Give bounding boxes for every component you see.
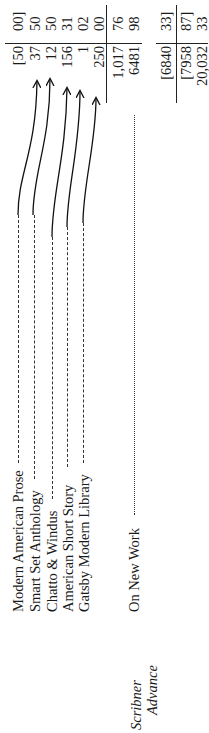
amount-cents-row-5: 02 <box>75 17 91 32</box>
amount-cents-row-2: 50 <box>27 17 43 32</box>
arrow-icon <box>52 88 67 237</box>
advance-total-cents: 33 <box>194 17 209 32</box>
arrow-icon <box>33 79 50 215</box>
amount-cents-row-3: 50 <box>43 17 59 32</box>
advance-cents-2: 87] <box>178 12 194 31</box>
advance-whole-1: [6840 <box>158 46 174 80</box>
subtotal-cents: 76 <box>110 17 126 32</box>
new-work-whole: 6481 <box>126 46 142 75</box>
column-separator-lower <box>156 43 208 44</box>
arrow-icon <box>83 98 96 223</box>
subtotal-rule <box>106 5 107 103</box>
arrow-icon <box>67 91 80 227</box>
advance-whole-2: [7958 <box>178 46 194 80</box>
amount-cents-row-1: 00] <box>10 12 26 31</box>
amount-whole-row-1: [50 <box>10 46 26 65</box>
amount-whole-row-4: 156 <box>59 46 75 68</box>
amount-cents-row-6: 00 <box>91 17 107 32</box>
page-frame: Modern American Prose Smart Set Antholog… <box>0 0 209 733</box>
column-separator-upper <box>5 43 142 44</box>
advance-total-whole: 20,032 <box>194 46 209 86</box>
amount-whole-row-5: 1 <box>75 46 91 53</box>
amount-whole-row-2: 37 <box>27 46 43 61</box>
new-work-cents: 98 <box>126 17 142 32</box>
amount-whole-row-3: 12 <box>43 46 59 61</box>
advance-rule <box>176 5 177 103</box>
advance-cents-1: 33] <box>158 12 174 31</box>
subtotal-whole: 1,017 <box>110 46 126 79</box>
amount-whole-row-6: 250 <box>91 46 107 68</box>
arrows-group <box>0 0 209 733</box>
amount-cents-row-4: 31 <box>59 17 75 32</box>
ledger-page: Modern American Prose Smart Set Antholog… <box>0 0 209 733</box>
